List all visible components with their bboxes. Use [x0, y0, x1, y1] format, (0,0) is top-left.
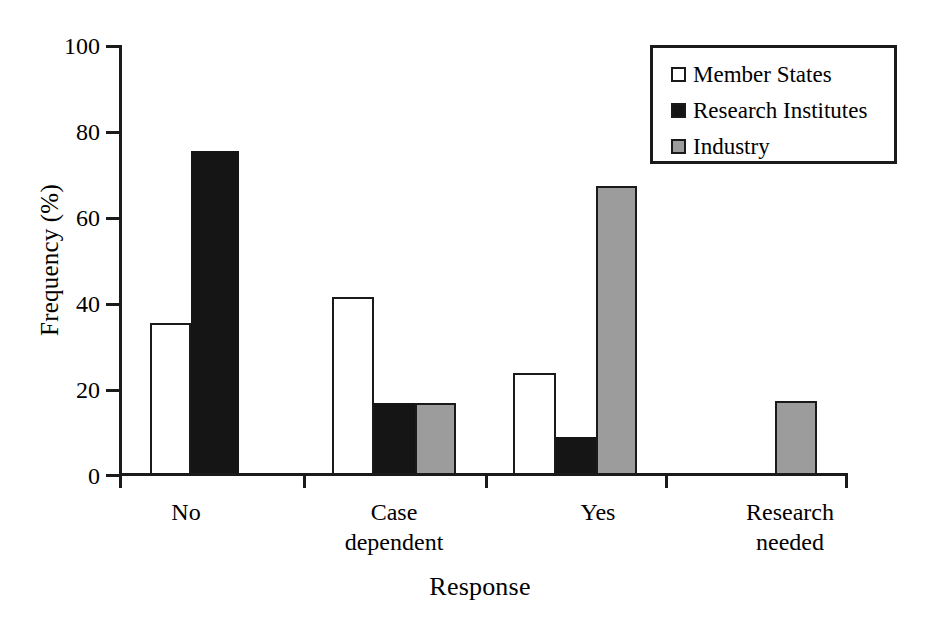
chart-legend: Member States Research Institutes Indust… — [650, 45, 897, 164]
legend-label-member-states: Member States — [693, 63, 832, 86]
y-axis-title: Frequency (%) — [36, 110, 64, 410]
x-tick-label-no: No — [96, 497, 276, 527]
x-axis-title: Response — [330, 572, 630, 602]
x-axis-line — [119, 473, 848, 476]
bar-case-dependent-member-states — [332, 297, 374, 476]
x-tick-label-research-needed: Research needed — [700, 497, 880, 557]
x-tick-label-no-line-1: No — [96, 497, 276, 527]
y-tick-mark-40 — [106, 303, 122, 306]
y-tick-mark-100 — [106, 45, 122, 48]
legend-swatch-member-states-icon — [671, 67, 686, 82]
y-tick-label-0: 0 — [36, 464, 100, 488]
legend-item-industry: Industry — [671, 130, 894, 163]
bar-chart-figure: Frequency (%) Response 100 80 60 40 20 0… — [0, 0, 940, 635]
y-tick-mark-80 — [106, 131, 122, 134]
x-tick-mark-4 — [845, 473, 848, 488]
x-tick-label-research-needed-line-2: needed — [700, 527, 880, 557]
legend-swatch-research-institutes-icon — [671, 103, 686, 118]
legend-item-member-states: Member States — [671, 58, 894, 91]
x-tick-label-case-dependent: Case dependent — [304, 497, 484, 557]
x-tick-mark-3 — [665, 473, 668, 488]
bar-yes-research-institutes — [556, 437, 596, 476]
y-axis-line — [119, 46, 122, 476]
legend-item-research-institutes: Research Institutes — [671, 94, 894, 127]
legend-swatch-industry-icon — [671, 139, 686, 154]
legend-label-research-institutes: Research Institutes — [693, 99, 867, 122]
legend-label-industry: Industry — [693, 135, 770, 158]
bar-case-dependent-research-institutes — [374, 403, 415, 476]
bar-research-needed-industry — [775, 401, 817, 476]
x-tick-label-case-dependent-line-2: dependent — [304, 527, 484, 557]
bar-no-research-institutes — [191, 151, 239, 476]
y-tick-label-100: 100 — [36, 34, 100, 58]
x-tick-label-yes: Yes — [508, 497, 688, 527]
y-tick-mark-60 — [106, 217, 122, 220]
x-tick-mark-2 — [485, 473, 488, 488]
x-tick-mark-0 — [119, 473, 122, 488]
x-tick-label-yes-line-1: Yes — [508, 497, 688, 527]
y-tick-label-60: 60 — [36, 206, 100, 230]
x-tick-label-research-needed-line-1: Research — [700, 497, 880, 527]
y-tick-label-20: 20 — [36, 378, 100, 402]
y-tick-label-40: 40 — [36, 292, 100, 316]
y-tick-mark-20 — [106, 389, 122, 392]
bar-case-dependent-industry — [415, 403, 456, 476]
x-tick-label-case-dependent-line-1: Case — [304, 497, 484, 527]
bar-no-member-states — [150, 323, 191, 476]
x-tick-mark-1 — [303, 473, 306, 488]
bar-yes-member-states — [513, 373, 556, 476]
y-tick-label-80: 80 — [36, 120, 100, 144]
bar-yes-industry — [596, 186, 637, 476]
